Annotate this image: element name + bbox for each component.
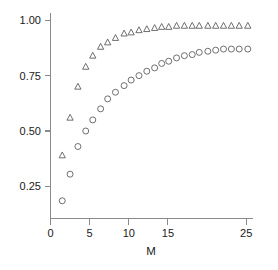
data-point-triangle [59, 152, 65, 158]
data-point-circle [112, 89, 118, 95]
data-point-circle [213, 47, 219, 53]
data-point-circle [228, 46, 234, 52]
x-tick-label: 10 [123, 227, 135, 239]
data-point-circle [59, 198, 65, 204]
data-point-triangle [136, 27, 142, 33]
data-point-triangle [128, 29, 134, 35]
data-point-circle [205, 48, 211, 54]
data-point-triangle [166, 24, 172, 30]
data-point-triangle [173, 22, 179, 28]
data-point-circle [159, 60, 165, 66]
scatter-plot-canvas: 0.250.500.751.00 05101525 M [0, 0, 278, 270]
data-point-triangle [67, 114, 73, 120]
data-point-triangle [236, 22, 242, 28]
data-point-circle [75, 144, 81, 150]
data-point-circle [121, 83, 127, 89]
data-point-triangle [220, 22, 226, 28]
data-point-circle [189, 52, 195, 58]
y-tick-label: 1.00 [20, 14, 41, 26]
data-point-circle [152, 65, 158, 71]
data-point-circle [98, 106, 104, 112]
series-circle-markers [59, 46, 251, 204]
x-axis-title: M [146, 245, 156, 257]
data-point-triangle [75, 83, 81, 89]
x-tick-label: 25 [240, 227, 252, 239]
series-triangle-markers [59, 22, 251, 157]
y-tick-label: 0.75 [20, 70, 41, 82]
x-tick-label: 0 [47, 227, 53, 239]
data-point-circle [67, 171, 73, 177]
data-point-circle [90, 117, 96, 123]
data-point-circle [105, 96, 111, 102]
data-point-circle [136, 73, 142, 79]
data-point-triangle [245, 22, 251, 28]
data-point-circle [245, 46, 251, 52]
data-point-circle [166, 58, 172, 64]
data-point-circle [196, 49, 202, 55]
data-point-triangle [196, 22, 202, 28]
data-point-circle [83, 128, 89, 134]
data-point-circle [144, 68, 150, 74]
data-point-triangle [112, 35, 118, 41]
data-point-circle [128, 77, 134, 83]
data-point-circle [174, 55, 180, 61]
data-point-triangle [213, 22, 219, 28]
data-point-circle [221, 46, 227, 52]
data-point-triangle [97, 43, 103, 49]
y-tick-label: 0.50 [20, 125, 41, 137]
chart-figure: 0.250.500.751.00 05101525 M [0, 0, 278, 270]
data-point-triangle [152, 25, 158, 31]
data-point-circle [236, 46, 242, 52]
data-point-triangle [189, 22, 195, 28]
data-point-circle [181, 53, 187, 59]
x-tick-label: 5 [87, 227, 93, 239]
data-point-triangle [144, 26, 150, 32]
data-point-triangle [83, 63, 89, 69]
data-point-triangle [159, 24, 165, 30]
x-tick-label: 15 [162, 227, 174, 239]
data-point-triangle [121, 30, 127, 36]
y-tick-label: 0.25 [20, 180, 41, 192]
y-axis-ticks: 0.250.500.751.00 [20, 14, 51, 192]
data-point-triangle [90, 52, 96, 58]
data-point-triangle [105, 39, 111, 45]
data-point-triangle [228, 22, 234, 28]
data-point-triangle [181, 22, 187, 28]
data-point-triangle [205, 22, 211, 28]
x-axis-ticks: 05101525 [47, 219, 252, 240]
